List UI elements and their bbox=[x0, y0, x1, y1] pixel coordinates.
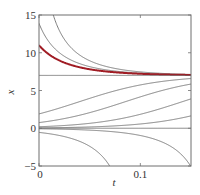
logistic-solution-chart: −5051015 00.1 x t bbox=[0, 0, 200, 195]
y-tick-label: 10 bbox=[25, 47, 37, 59]
x-axis-label: t bbox=[112, 176, 116, 188]
x-tick-label: 0.1 bbox=[133, 168, 147, 180]
curve-blowup-upper-2 bbox=[39, 23, 191, 74]
curve-falling-2 bbox=[39, 132, 117, 181]
curve-rising-3 bbox=[39, 99, 191, 127]
solution-curves bbox=[39, 1, 191, 181]
curve-highlighted-solution bbox=[39, 45, 191, 75]
y-axis-label: x bbox=[4, 89, 16, 95]
curve-rising-2 bbox=[39, 84, 191, 123]
curve-blowup-upper-1 bbox=[50, 1, 191, 74]
x-tick-label: 0 bbox=[37, 168, 43, 180]
y-tick-label: −5 bbox=[24, 160, 36, 172]
curve-falling-1 bbox=[39, 129, 191, 167]
y-axis-ticks: −5051015 bbox=[24, 9, 191, 172]
y-tick-label: 5 bbox=[31, 85, 37, 97]
y-tick-label: 15 bbox=[25, 9, 37, 21]
curve-rising-1 bbox=[39, 79, 191, 114]
y-tick-label: 0 bbox=[31, 122, 37, 134]
